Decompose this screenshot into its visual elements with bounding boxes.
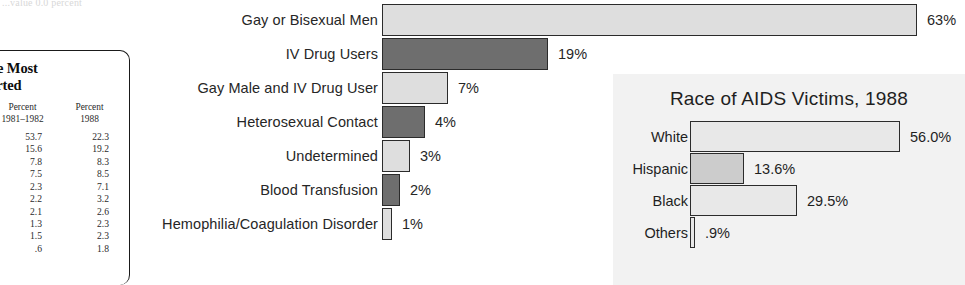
bar-category-label: Undetermined — [286, 148, 378, 164]
inset-bar-row: Black 29.5% — [613, 185, 965, 216]
bar-category-label: Gay or Bisexual Men — [242, 12, 379, 28]
bar-row: Undetermined 3% — [0, 140, 620, 172]
bar-row: IV Drug Users 19% — [0, 38, 620, 70]
race-of-aids-victims-panel: Race of AIDS Victims, 1988 White 56.0% H… — [613, 74, 965, 285]
bar-value-label: 2% — [410, 182, 431, 198]
bar-category-label: Hemophilia/Coagulation Disorder — [162, 216, 378, 232]
bar-value-label: 1% — [402, 216, 423, 232]
inset-bar-category-label: White — [651, 129, 688, 145]
bar-gay-male-and-iv-drug-user — [382, 72, 448, 104]
bar-value-label: 7% — [458, 80, 479, 96]
bar-row: Blood Transfusion 2% — [0, 174, 620, 206]
bar-hemophilia-coagulation-disorder — [382, 208, 392, 240]
inset-bar-category-label: Hispanic — [632, 161, 688, 177]
bar-value-label: 63% — [927, 12, 956, 28]
bar-category-label: Gay Male and IV Drug User — [197, 80, 378, 96]
bar-category-label: Heterosexual Contact — [237, 114, 378, 130]
inset-bar-hispanic — [690, 153, 744, 184]
inset-bar-value-label: 13.6% — [754, 161, 795, 177]
bar-value-label: 19% — [558, 46, 587, 62]
bar-undetermined — [382, 140, 410, 172]
inset-bar-category-label: Black — [653, 193, 688, 209]
bar-row: Gay Male and IV Drug User 7% — [0, 72, 620, 104]
inset-bar-row: Others .9% — [613, 217, 965, 248]
bar-row: Hemophilia/Coagulation Disorder 1% — [0, 208, 620, 240]
bar-row: Gay or Bisexual Men 63% — [0, 4, 620, 36]
inset-bar-value-label: 29.5% — [807, 193, 848, 209]
bar-category-label: IV Drug Users — [286, 46, 378, 62]
inset-bar-row: White 56.0% — [613, 121, 965, 152]
bar-row: Heterosexual Contact 4% — [0, 106, 620, 138]
inset-bar-value-label: .9% — [705, 225, 730, 241]
inset-bar-row: Hispanic 13.6% — [613, 153, 965, 184]
transmission-categories-chart: Gay or Bisexual Men 63% IV Drug Users 19… — [0, 0, 620, 250]
inset-bar-others — [690, 217, 695, 248]
inset-bar-black — [690, 185, 797, 216]
inset-bar-value-label: 56.0% — [910, 129, 951, 145]
bar-iv-drug-users — [382, 38, 548, 70]
inset-bar-white — [690, 121, 900, 152]
inset-chart-title: Race of AIDS Victims, 1988 — [613, 88, 965, 110]
inset-bar-category-label: Others — [644, 225, 688, 241]
bar-category-label: Blood Transfusion — [260, 182, 378, 198]
bar-heterosexual-contact — [382, 106, 425, 138]
bar-value-label: 4% — [435, 114, 456, 130]
bar-gay-or-bisexual-men — [382, 4, 917, 36]
aids-statistics-figure: { "caption_strip": "...value 0.0 percent… — [0, 0, 965, 285]
bar-blood-transfusion — [382, 174, 400, 206]
bar-value-label: 3% — [420, 148, 441, 164]
